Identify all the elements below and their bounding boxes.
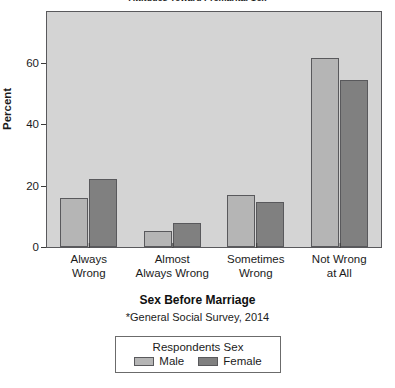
bar-female-0 [89, 179, 117, 248]
bar-female-3 [340, 80, 368, 247]
x-tick-1: AlmostAlways Wrong [136, 249, 209, 280]
plot-area [47, 12, 381, 247]
plot-panel [46, 11, 382, 248]
x-tick-0: AlwaysWrong [71, 249, 107, 280]
x-tick-mark-icon [89, 243, 90, 248]
x-axis-label: Sex Before Marriage [0, 293, 395, 307]
y-tick-20: 20 [26, 180, 46, 192]
legend: Respondents Sex Male Female [115, 336, 281, 373]
bar-male-3 [311, 58, 339, 247]
x-axis: AlwaysWrongAlmostAlways WrongSometimesWr… [46, 249, 382, 289]
x-tick-label-line: Always [71, 249, 107, 266]
x-tick-label-line: Always Wrong [136, 266, 209, 280]
x-tick-3: Not Wrongat All [312, 249, 367, 280]
y-tick-40: 40 [26, 118, 46, 130]
x-tick-label-line: at All [312, 266, 367, 280]
x-tick-label-line: Wrong [227, 266, 285, 280]
legend-title: Respondents Sex [122, 341, 274, 353]
legend-label-female: Female [223, 355, 261, 367]
x-tick-label-line: Wrong [71, 266, 107, 280]
chart-footnote: *General Social Survey, 2014 [0, 311, 395, 323]
x-tick-mark-icon [339, 243, 340, 248]
legend-swatch-male-icon [134, 357, 154, 366]
y-tick-60: 60 [26, 57, 46, 69]
x-tick-label-line: Not Wrong [312, 249, 367, 266]
legend-swatch-female-icon [198, 357, 218, 366]
bar-female-1 [173, 223, 201, 247]
x-tick-mark-icon [256, 243, 257, 248]
chart-screenshot: Attitudes Toward Premarital Sex 0204060 … [0, 0, 395, 388]
x-tick-mark-icon [172, 243, 173, 248]
bar-male-2 [227, 195, 255, 247]
legend-label-male: Male [159, 355, 184, 367]
y-tick-0: 0 [33, 241, 46, 253]
chart-title: Attitudes Toward Premarital Sex [0, 0, 395, 1]
x-tick-2: SometimesWrong [227, 249, 285, 280]
x-tick-label-line: Almost [136, 249, 209, 266]
bar-male-1 [144, 231, 172, 247]
legend-item-female[interactable]: Female [198, 355, 261, 367]
y-axis-label: Percent [1, 88, 13, 130]
bar-female-2 [256, 202, 284, 247]
x-tick-label-line: Sometimes [227, 249, 285, 266]
bar-male-0 [60, 198, 88, 247]
legend-item-male[interactable]: Male [134, 355, 184, 367]
